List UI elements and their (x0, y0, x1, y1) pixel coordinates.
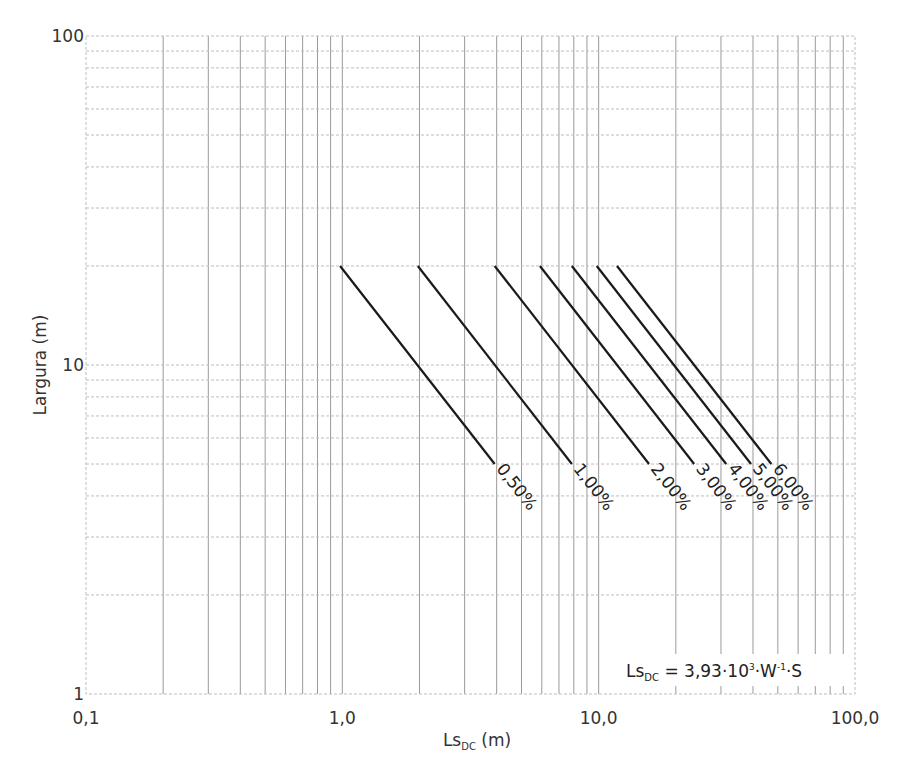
horizontal-gridlines (86, 51, 855, 595)
series-label: 0,50% (493, 459, 542, 514)
y-tick-label: 1 (73, 684, 84, 704)
x-tick-label: 1,0 (329, 708, 356, 728)
series-label: 1,00% (570, 459, 619, 514)
x-tick-label: 0,1 (72, 708, 99, 728)
tick-labels: 0,11,010,0100,0110100 (52, 26, 880, 728)
y-tick-label: 10 (62, 355, 84, 375)
y-axis-title: Largura (m) (30, 315, 50, 416)
y-tick-label: 100 (52, 26, 84, 46)
series-label: 2,00% (647, 459, 696, 514)
log-log-chart: 0,50%1,00%2,00%3,00%4,00%5,00%6,00% LsDC… (0, 0, 903, 783)
x-tick-label: 10,0 (580, 708, 618, 728)
chart: 0,50%1,00%2,00%3,00%4,00%5,00%6,00% LsDC… (0, 0, 903, 783)
formula-annotation: LsDC = 3,93·103·W-1·S (614, 654, 853, 686)
x-axis-title: LsDC (m) (443, 730, 511, 752)
x-tick-label: 100,0 (831, 708, 880, 728)
